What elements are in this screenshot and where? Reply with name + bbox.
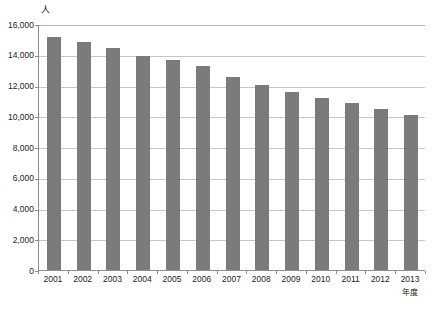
x-axis-tick-mark bbox=[395, 271, 396, 274]
y-axis-tick-label: 12,000 bbox=[0, 82, 34, 91]
x-axis-tick-mark bbox=[246, 271, 247, 274]
bar[interactable] bbox=[136, 56, 150, 270]
y-axis-tick-label: 6,000 bbox=[0, 174, 34, 183]
x-axis-tick-label: 2012 bbox=[365, 274, 395, 284]
x-axis-tick-label: 2005 bbox=[157, 274, 187, 284]
x-axis-tick-label: 2007 bbox=[217, 274, 247, 284]
bar[interactable] bbox=[345, 103, 359, 270]
x-axis-tick-label: 2002 bbox=[68, 274, 98, 284]
x-axis-tick-label: 2008 bbox=[246, 274, 276, 284]
y-axis-tick-label: 16,000 bbox=[0, 21, 34, 30]
bar[interactable] bbox=[404, 115, 418, 270]
x-axis-tick-mark bbox=[276, 271, 277, 274]
x-axis-tick-mark bbox=[38, 271, 39, 274]
x-axis-tick-label: 2001 bbox=[38, 274, 68, 284]
x-axis-tick-label: 2006 bbox=[187, 274, 217, 284]
x-axis-tick-label: 2009 bbox=[276, 274, 306, 284]
y-axis-tick-label: 2,000 bbox=[0, 236, 34, 245]
y-axis-tick-label: 10,000 bbox=[0, 113, 34, 122]
plot-area bbox=[38, 25, 425, 271]
y-axis-tick-label: 0 bbox=[0, 267, 34, 276]
gridline bbox=[39, 56, 425, 57]
y-axis-tick-label: 14,000 bbox=[0, 51, 34, 60]
x-axis-tick-mark bbox=[98, 271, 99, 274]
x-axis-unit-label: 年度 bbox=[402, 288, 418, 297]
y-axis-unit-label: 人 bbox=[41, 5, 50, 15]
x-axis-tick-mark bbox=[306, 271, 307, 274]
x-axis-tick-mark bbox=[425, 271, 426, 274]
bar[interactable] bbox=[77, 42, 91, 270]
x-axis-tick-mark bbox=[365, 271, 366, 274]
bar[interactable] bbox=[166, 60, 180, 270]
bar[interactable] bbox=[47, 37, 61, 270]
gridline bbox=[39, 25, 425, 26]
bar[interactable] bbox=[255, 85, 269, 270]
chart-page: 人 02,0004,0006,0008,00010,00012,00014,00… bbox=[0, 0, 435, 310]
x-axis-tick-mark bbox=[127, 271, 128, 274]
x-axis-tick-label: 2013 bbox=[395, 274, 425, 284]
x-axis-tick-label: 2004 bbox=[127, 274, 157, 284]
x-axis-tick-label: 2010 bbox=[306, 274, 336, 284]
bar[interactable] bbox=[106, 48, 120, 270]
bar[interactable] bbox=[226, 77, 240, 270]
bar[interactable] bbox=[374, 109, 388, 270]
x-axis-tick-mark bbox=[217, 271, 218, 274]
x-axis-tick-mark bbox=[157, 271, 158, 274]
bar[interactable] bbox=[285, 92, 299, 270]
x-axis: 2001200220032004200520062007200820092010… bbox=[38, 274, 425, 288]
bar[interactable] bbox=[315, 98, 329, 270]
bar[interactable] bbox=[196, 66, 210, 270]
x-axis-tick-mark bbox=[187, 271, 188, 274]
y-axis-tick-label: 8,000 bbox=[0, 144, 34, 153]
x-axis-tick-label: 2003 bbox=[98, 274, 128, 284]
x-axis-tick-mark bbox=[336, 271, 337, 274]
x-axis-tick-mark bbox=[68, 271, 69, 274]
y-axis-tick-label: 4,000 bbox=[0, 205, 34, 214]
x-axis-tick-label: 2011 bbox=[336, 274, 366, 284]
